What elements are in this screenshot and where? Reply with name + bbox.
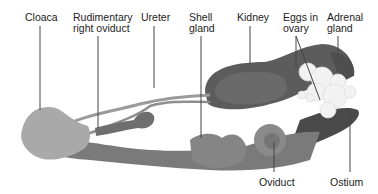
rudimentary-oviduct-shape — [95, 112, 154, 136]
reproductive-tract-diagram: Cloaca Rudimentary right oviduct Ureter … — [0, 0, 378, 194]
label-adrenal-gland: Adrenal gland — [327, 12, 363, 34]
label-eggs-in-ovary: Eggs in ovary — [283, 12, 318, 34]
label-kidney: Kidney — [237, 12, 269, 23]
label-ureter: Ureter — [141, 12, 170, 23]
label-oviduct: Oviduct — [259, 177, 295, 188]
label-cloaca: Cloaca — [25, 12, 58, 23]
label-shell-gland: Shell gland — [189, 12, 215, 34]
label-ostium: Ostium — [330, 177, 363, 188]
shell-gland-shape — [190, 134, 247, 168]
label-rudimentary-right-oviduct: Rudimentary right oviduct — [73, 12, 133, 34]
oviduct-coil-inner — [264, 133, 280, 149]
